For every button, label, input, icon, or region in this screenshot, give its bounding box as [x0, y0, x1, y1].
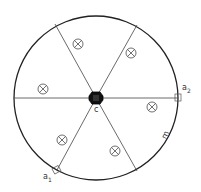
cross-circle-icon [126, 48, 136, 58]
anchor-a1-label: a1 [43, 173, 52, 183]
wheel-diagram [0, 0, 201, 192]
anchor-a2-sub: 2 [187, 87, 191, 94]
anchor-a1-sub: 1 [48, 176, 52, 183]
spoke-upper-left [55, 24, 96, 98]
cross-circle-icon [73, 39, 83, 49]
spoke-upper-right [96, 25, 137, 98]
spoke-lower-right [96, 98, 137, 171]
center-label: c [94, 106, 98, 114]
anchor-a2-label: a2 [182, 84, 191, 94]
cross-circle-icon [147, 102, 157, 112]
spoke-lower-left [57, 98, 96, 170]
cross-circle-icon [38, 84, 48, 94]
cross-circle-icon [110, 146, 120, 156]
cross-circle-icon [57, 135, 67, 145]
hub-icon [89, 92, 103, 104]
